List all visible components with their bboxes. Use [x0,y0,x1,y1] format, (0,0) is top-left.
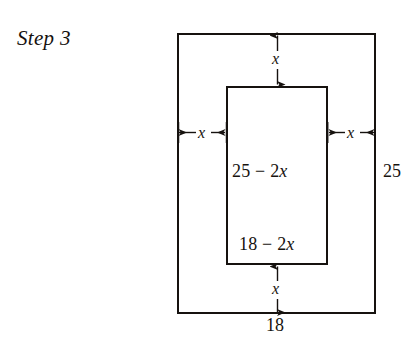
inner-width-label: 18 − 2x [239,234,295,255]
margin-label-top: x [272,50,279,68]
step-caption: Step 3 [17,26,71,51]
outer-width-label: 18 [266,315,284,336]
inner-width-label-var: x [286,234,294,254]
inner-height-label-lead: 25 − 2 [232,161,279,181]
margin-label-right: x [347,124,354,142]
margin-label-bottom: x [272,280,279,298]
outer-height-label: 25 [383,161,401,182]
margin-label-left: x [198,124,205,142]
geometry-figure: Step 3 [0,0,412,344]
inner-height-label: 25 − 2x [232,161,288,182]
inner-width-label-lead: 18 − 2 [239,234,286,254]
inner-height-label-var: x [279,161,287,181]
